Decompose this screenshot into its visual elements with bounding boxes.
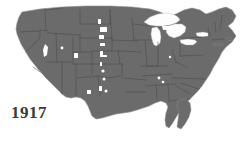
marker-17 [169, 56, 171, 58]
marker-15 [158, 77, 161, 80]
marker-1 [98, 19, 101, 24]
year-label: 1917 [11, 103, 47, 123]
marker-12 [74, 53, 78, 58]
marker-6 [102, 55, 107, 57]
marker-10 [99, 86, 102, 91]
marker-14 [87, 90, 91, 94]
marker-16 [162, 81, 165, 84]
marker-8 [101, 69, 104, 72]
marker-2 [100, 27, 107, 32]
map-figure: 1917 [0, 0, 245, 144]
marker-9 [103, 78, 106, 81]
lake-ontario [196, 32, 208, 37]
marker-3 [99, 35, 104, 39]
marker-11 [105, 90, 108, 93]
marker-7 [100, 62, 102, 66]
marker-4 [100, 43, 105, 46]
marker-13 [61, 47, 64, 50]
